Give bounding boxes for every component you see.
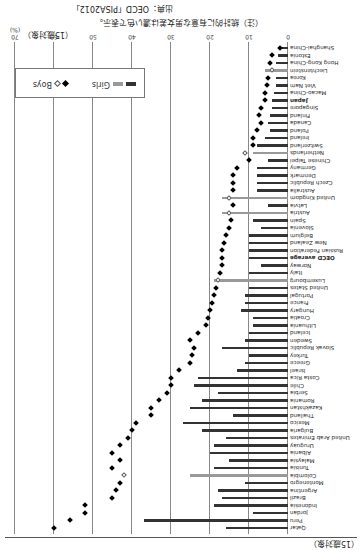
country-label: United Arab Emirates (290, 435, 350, 442)
legend-girls-light-swatch (113, 82, 123, 86)
boys-diamond-marker (221, 240, 227, 246)
country-label: New Zealand (290, 240, 327, 247)
girls-bar (253, 512, 288, 515)
legend: Girls Boys (15, 68, 145, 98)
girls-bar (191, 474, 289, 477)
boys-diamond-marker (227, 225, 233, 231)
country-label: Israel (290, 367, 305, 374)
girls-bar (249, 287, 288, 290)
country-label: Thailand (290, 412, 314, 419)
country-label: OECD average (290, 255, 335, 262)
subject-note: （15歳対象） (309, 539, 359, 550)
boys-diamond-marker (256, 113, 262, 119)
country-label: United States (290, 285, 328, 292)
country-label: Brazil (290, 495, 306, 502)
country-label: Singapore (290, 105, 318, 112)
country-label: Portugal (290, 292, 313, 299)
girls-bar (230, 459, 289, 462)
boys-diamond-marker (117, 458, 123, 464)
boys-diamond-marker (262, 90, 268, 96)
country-label: Australia (290, 187, 315, 194)
boys-diamond-marker (110, 450, 116, 456)
boys-diamond-marker (231, 188, 237, 194)
boys-diamond-marker (219, 255, 225, 261)
axis-unit-label: (%) (10, 27, 20, 34)
girls-bar (270, 129, 288, 132)
girls-bar (253, 219, 288, 222)
country-label: Croatia (290, 315, 310, 322)
girls-bar (253, 317, 288, 320)
axis-tick-label: 20 (206, 34, 214, 41)
boys-diamond-marker (67, 518, 73, 524)
girls-bar (222, 347, 288, 350)
girls-bar (269, 159, 289, 162)
girls-bar (272, 99, 288, 102)
girls-bar (214, 467, 288, 470)
country-label: Canada (290, 120, 311, 127)
gridline (14, 42, 15, 534)
boys-diamond-marker (117, 443, 123, 449)
country-label: Sweden (290, 337, 312, 344)
axis-tick-label: 10 (245, 34, 253, 41)
boys-diamond-marker (234, 165, 240, 171)
girls-bar (202, 429, 288, 432)
country-label: United Kingdom (290, 195, 335, 202)
country-label: Indonesia (290, 502, 317, 509)
boys-diamond-marker (254, 128, 260, 134)
country-label: Albania (290, 450, 311, 457)
country-label: Liechtenstein (290, 67, 328, 74)
country-label: Costa Rica (290, 375, 320, 382)
country-label: Hong Kong-China (290, 60, 338, 67)
girls-bar (214, 504, 288, 507)
girls-bar (226, 437, 288, 440)
girls-bar (245, 302, 288, 305)
country-label: Uruguay (290, 442, 314, 449)
boys-diamond-marker (231, 203, 237, 209)
source-note: 出典：OECD「PISA2012」 (72, 4, 173, 15)
gridline (53, 42, 54, 534)
boys-diamond-marker (258, 120, 264, 126)
girls-bar (261, 264, 288, 267)
boys-diamond-marker (82, 510, 88, 516)
girls-bar (257, 167, 288, 170)
girls-bar (214, 444, 288, 447)
girls-bar (233, 414, 288, 417)
girls-bar (245, 339, 288, 342)
country-label: Poland (290, 127, 309, 134)
country-label: France (290, 300, 309, 307)
country-label: Austria (290, 210, 310, 217)
girls-bar (257, 144, 288, 147)
country-label: Qatar (290, 525, 306, 532)
girls-bar (226, 527, 288, 530)
girls-bar (218, 489, 288, 492)
country-label: Spain (290, 217, 306, 224)
boys-diamond-marker (149, 405, 155, 411)
country-label: Tunisia (290, 465, 309, 472)
legend-girls-label: Girls (92, 80, 110, 89)
boys-diamond-marker (215, 278, 221, 284)
country-label: Korea (290, 75, 306, 82)
boys-diamond-marker (190, 353, 196, 359)
boys-diamond-marker (250, 143, 256, 149)
country-label: Belgium (290, 232, 313, 239)
subject-label: （15歳対象） (23, 30, 73, 41)
girls-bar (282, 47, 288, 50)
boys-diamond-marker (219, 248, 225, 254)
axis-tick-label: 40 (128, 34, 136, 41)
country-label: Czech Republic (290, 180, 333, 187)
girls-bar (257, 174, 288, 177)
girls-bar (237, 369, 288, 372)
girls-bar (269, 122, 289, 125)
country-label: Slovenia (290, 225, 314, 232)
girls-bar (249, 257, 288, 260)
boys-diamond-marker (264, 83, 270, 89)
boys-diamond-marker (211, 293, 217, 299)
boys-diamond-marker (258, 105, 264, 111)
gridline (92, 42, 93, 534)
boys-diamond-marker (156, 398, 162, 404)
boys-diamond-marker (205, 315, 211, 321)
girls-bar (183, 422, 288, 425)
gridline (170, 42, 171, 534)
girls-bar (249, 242, 288, 245)
boys-diamond-marker (114, 488, 120, 494)
